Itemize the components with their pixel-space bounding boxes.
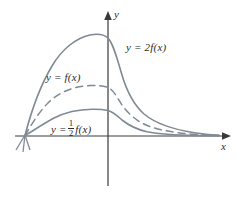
label-bottom-curve: y =12f(x) [51,119,91,138]
x-axis-label: x [221,140,226,152]
x-axis-arrowhead [222,132,231,140]
fraction-denominator: 2 [68,128,75,138]
y-axis-arrowhead [104,11,112,20]
one-half-fraction: 12 [68,119,75,138]
label-middle-curve-text: y = f(x) [46,71,81,83]
fraction-numerator: 1 [68,119,75,128]
graph-canvas [0,0,240,197]
label-middle-curve: y = f(x) [46,71,81,83]
label-top-curve-text: y = 2f(x) [126,41,166,53]
label-bottom-curve-prefix: y = [51,123,67,135]
label-top-curve: y = 2f(x) [126,41,166,53]
y-axis-label: y [114,8,119,20]
tangent-stub-right [25,135,30,150]
label-bottom-curve-suffix: f(x) [75,123,91,135]
origin-tangent-stubs [16,135,30,152]
math-figure: y = 2f(x) y = f(x) y =12f(x) y x [0,0,240,197]
